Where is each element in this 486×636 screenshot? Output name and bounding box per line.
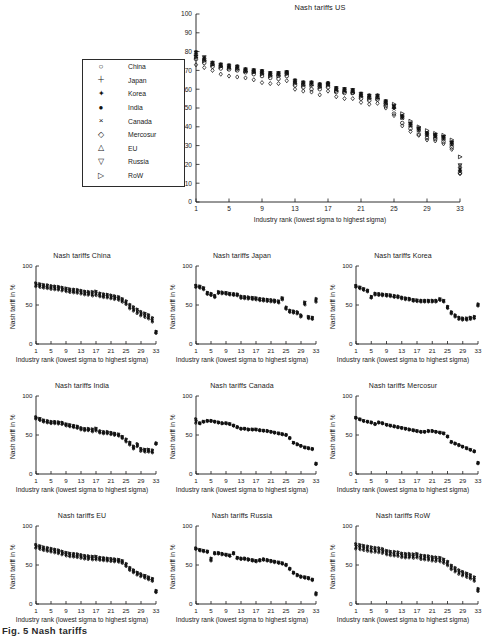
legend-item-eu: △EU	[83, 142, 184, 156]
asterisk-filled-icon: ✦	[86, 90, 116, 98]
svg-text:5: 5	[209, 607, 213, 614]
svg-text:21: 21	[429, 607, 436, 614]
series-japan	[194, 53, 462, 173]
legend-item-label: Korea	[116, 90, 146, 97]
chart-nash-tariffs-eu: Nash tariffs EU050100159131721252933Indu…	[2, 512, 162, 636]
series-cluster-japan	[195, 284, 318, 321]
svg-text:100: 100	[22, 262, 33, 269]
svg-text:5: 5	[209, 477, 213, 484]
svg-text:21: 21	[108, 347, 115, 354]
svg-text:25: 25	[123, 477, 130, 484]
figure-nash-tariffs: Nash tariffs US 010203040506070809010015…	[0, 0, 486, 636]
svg-text:90: 90	[185, 29, 193, 36]
svg-text:13: 13	[78, 347, 85, 354]
series-india	[195, 50, 462, 170]
svg-text:25: 25	[444, 477, 451, 484]
legend: ○China＋Japan✦Korea●India×Canada◇Mercosur…	[82, 59, 185, 187]
series-canada	[194, 55, 461, 174]
svg-text:29: 29	[298, 477, 305, 484]
legend-item-canada: ×Canada	[83, 114, 184, 128]
series-cluster-row	[355, 542, 480, 592]
svg-text:100: 100	[22, 392, 33, 399]
svg-text:100: 100	[182, 522, 193, 529]
svg-text:100: 100	[342, 392, 353, 399]
svg-text:1: 1	[34, 347, 38, 354]
svg-text:1: 1	[194, 607, 198, 614]
svg-text:21: 21	[268, 347, 275, 354]
plot-area-us: 0102030405060708090100159131721252933	[160, 2, 480, 240]
series-cluster-india	[35, 416, 158, 454]
svg-text:5: 5	[227, 205, 231, 212]
svg-text:13: 13	[238, 477, 245, 484]
svg-text:100: 100	[182, 392, 193, 399]
circle-open-icon: ○	[86, 63, 116, 71]
legend-item-label: Mercosur	[116, 131, 156, 138]
svg-text:33: 33	[475, 347, 482, 354]
svg-text:17: 17	[253, 607, 260, 614]
svg-text:33: 33	[313, 477, 320, 484]
svg-text:29: 29	[138, 347, 145, 354]
svg-text:17: 17	[253, 477, 260, 484]
svg-text:17: 17	[253, 347, 260, 354]
x-axis-label-japan: Industry rank (lowest sigma to highest s…	[162, 356, 322, 363]
svg-text:9: 9	[224, 477, 228, 484]
svg-text:21: 21	[357, 205, 365, 212]
legend-item-label: China	[116, 63, 146, 70]
y-axis-label-china: Nash tariff in %	[9, 284, 16, 329]
svg-text:50: 50	[186, 301, 193, 308]
svg-text:1: 1	[34, 477, 38, 484]
y-axis-label-row: Nash tariff in %	[329, 544, 336, 589]
svg-text:5: 5	[370, 347, 374, 354]
svg-text:40: 40	[185, 123, 193, 130]
svg-text:13: 13	[398, 347, 405, 354]
plus-icon: ＋	[86, 76, 116, 84]
svg-text:17: 17	[324, 205, 332, 212]
legend-item-label: RoW	[116, 172, 143, 179]
triangle-down-open-icon: ▽	[86, 158, 116, 166]
svg-text:25: 25	[444, 347, 451, 354]
dot-filled-icon: ●	[86, 104, 116, 112]
svg-text:100: 100	[182, 262, 193, 269]
svg-text:13: 13	[398, 607, 405, 614]
svg-text:21: 21	[268, 477, 275, 484]
svg-text:9: 9	[224, 607, 228, 614]
cross-icon: ×	[86, 117, 116, 125]
svg-text:33: 33	[153, 347, 160, 354]
svg-text:33: 33	[313, 347, 320, 354]
legend-item-china: ○China	[83, 60, 184, 74]
svg-text:100: 100	[181, 10, 192, 17]
svg-text:100: 100	[22, 522, 33, 529]
series-russia	[194, 51, 462, 167]
svg-text:9: 9	[385, 347, 389, 354]
svg-text:25: 25	[390, 205, 398, 212]
svg-text:25: 25	[283, 607, 290, 614]
series-cluster-mercosur	[355, 416, 480, 465]
svg-text:100: 100	[342, 262, 353, 269]
svg-text:29: 29	[459, 347, 466, 354]
svg-text:25: 25	[283, 477, 290, 484]
svg-text:0: 0	[189, 340, 193, 347]
svg-text:13: 13	[238, 607, 245, 614]
svg-text:21: 21	[108, 477, 115, 484]
legend-item-label: Russia	[116, 158, 149, 165]
svg-text:50: 50	[186, 431, 193, 438]
x-axis-label-india: Industry rank (lowest sigma to highest s…	[2, 486, 162, 493]
y-axis-label-eu: Nash tariff in %	[9, 544, 16, 589]
series-row	[194, 55, 462, 158]
svg-text:0: 0	[189, 470, 193, 477]
svg-text:13: 13	[78, 607, 85, 614]
svg-text:29: 29	[459, 477, 466, 484]
chart-nash-tariffs-row: Nash tariffs RoW050100159131721252933Ind…	[322, 512, 484, 636]
svg-text:1: 1	[194, 205, 198, 212]
svg-text:0: 0	[29, 600, 33, 607]
svg-text:29: 29	[138, 477, 145, 484]
svg-text:20: 20	[185, 161, 193, 168]
svg-text:1: 1	[354, 607, 358, 614]
svg-text:33: 33	[475, 477, 482, 484]
chart-nash-tariffs-us: Nash tariffs US 010203040506070809010015…	[160, 2, 480, 240]
svg-text:1: 1	[354, 347, 358, 354]
legend-item-korea: ✦Korea	[83, 87, 184, 101]
svg-text:50: 50	[26, 431, 33, 438]
svg-text:25: 25	[444, 607, 451, 614]
svg-text:17: 17	[414, 607, 421, 614]
